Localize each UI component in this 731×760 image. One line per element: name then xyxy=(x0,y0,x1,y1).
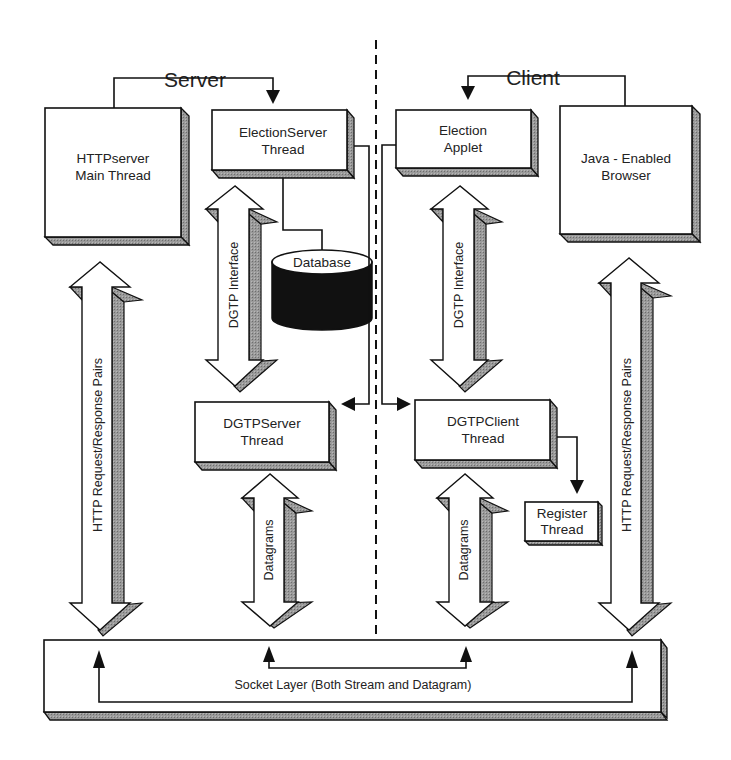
dgtpserver-label-line2: Thread xyxy=(241,433,284,448)
dgtpclient-to-register-connector xyxy=(557,437,584,494)
electionserver-label-line1: ElectionServer xyxy=(239,125,327,140)
http-arrow-left-label: HTTP Request/Response Pairs xyxy=(91,358,105,532)
client-section-title: Client xyxy=(506,66,560,89)
httpserver-main-thread-box: HTTPserver Main Thread xyxy=(45,108,189,245)
election-applet-label-line1: Election xyxy=(439,123,487,138)
server-section-title: Server xyxy=(164,68,226,91)
electionserver-label-line2: Thread xyxy=(262,142,305,157)
datagrams-server-label: Datagrams xyxy=(262,519,276,580)
architecture-diagram: Server Client HTTPserver Main Thread Ele… xyxy=(0,0,731,760)
http-arrow-right-label: HTTP Request/Response Pairs xyxy=(620,358,634,532)
electionserver-thread-box: ElectionServer Thread xyxy=(212,110,354,178)
election-applet-label-line2: Applet xyxy=(444,140,483,155)
dgtp-interface-arrow-client: DGTP Interface xyxy=(431,186,502,392)
dgtp-interface-arrow-server: DGTP Interface xyxy=(206,186,277,392)
register-thread-box: Register Thread xyxy=(525,502,602,545)
dgtpclient-thread-box: DGTPClient Thread xyxy=(415,400,557,468)
http-request-response-arrow-left: HTTP Request/Response Pairs xyxy=(70,262,142,636)
applet-to-dgtpclient-connector xyxy=(382,145,411,411)
datagrams-client-label: Datagrams xyxy=(457,519,471,580)
httpserver-label-line2: Main Thread xyxy=(75,168,151,183)
election-applet-box: Election Applet xyxy=(396,110,538,176)
dgtpserver-label-line1: DGTPServer xyxy=(223,416,301,431)
dgtpclient-label-line2: Thread xyxy=(462,431,505,446)
socket-layer-box: Socket Layer (Both Stream and Datagram) xyxy=(44,640,667,720)
register-label-line2: Thread xyxy=(541,522,584,537)
java-enabled-browser-box: Java - Enabled Browser xyxy=(560,106,700,242)
browser-label-line2: Browser xyxy=(601,168,651,183)
electionserver-to-database-connector xyxy=(283,178,322,252)
browser-label-line1: Java - Enabled xyxy=(581,151,671,166)
datagrams-arrow-client: Datagrams xyxy=(437,474,508,628)
dgtp-interface-server-label: DGTP Interface xyxy=(227,242,241,329)
database-label: Database xyxy=(293,255,351,270)
socket-layer-label: Socket Layer (Both Stream and Datagram) xyxy=(235,678,472,692)
datagrams-arrow-server: Datagrams xyxy=(242,474,312,628)
dgtpserver-thread-box: DGTPServer Thread xyxy=(195,402,336,470)
register-label-line1: Register xyxy=(537,506,588,521)
dgtp-interface-client-label: DGTP Interface xyxy=(452,242,466,329)
http-request-response-arrow-right: HTTP Request/Response Pairs xyxy=(599,258,671,636)
httpserver-label-line1: HTTPserver xyxy=(77,151,150,166)
database-cylinder: Database xyxy=(272,250,372,330)
dgtpclient-label-line1: DGTPClient xyxy=(447,414,519,429)
